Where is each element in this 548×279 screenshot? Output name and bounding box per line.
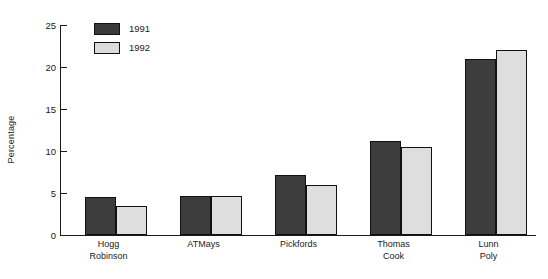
y-axis-tick-label: 15	[8, 104, 56, 115]
x-axis-category-label: LunnPoly	[441, 239, 536, 262]
y-axis-tick-label: 5	[8, 188, 56, 199]
bar-group	[465, 25, 527, 235]
legend-entry: 1992	[94, 38, 150, 57]
legend-label: 1991	[129, 23, 150, 34]
bar	[211, 196, 242, 235]
bar	[85, 197, 116, 235]
y-axis-tick	[61, 235, 67, 236]
bar	[275, 175, 306, 235]
bar	[401, 147, 432, 235]
bar	[180, 196, 211, 235]
bar	[465, 59, 496, 235]
y-axis-tick-label: 25	[8, 20, 56, 31]
legend-swatch	[94, 42, 120, 54]
chart-legend: 19911992	[94, 19, 150, 57]
y-axis-tick-label: 20	[8, 62, 56, 73]
legend-label: 1992	[129, 42, 150, 53]
y-axis-tick-label: 10	[8, 146, 56, 157]
bar	[306, 185, 337, 235]
bar	[496, 50, 527, 235]
bar	[116, 206, 147, 235]
x-axis-line	[60, 235, 536, 236]
y-axis-tick-label: 0	[8, 230, 56, 241]
x-axis-category-label: ThomasCook	[346, 239, 441, 262]
bar-chart: Percentage 0510152025 HoggRobinsonATMays…	[0, 0, 548, 279]
x-axis-category-label: ATMays	[156, 239, 251, 251]
x-axis-category-label: HoggRobinson	[61, 239, 156, 262]
legend-entry: 1991	[94, 19, 150, 38]
bar-group	[180, 25, 242, 235]
legend-swatch	[94, 23, 120, 35]
x-axis-category-label: Pickfords	[251, 239, 346, 251]
bar-group	[275, 25, 337, 235]
bar-group	[370, 25, 432, 235]
bar	[370, 141, 401, 235]
